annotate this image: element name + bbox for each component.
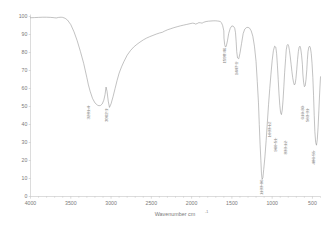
x-tick-label: 3000 [105,200,117,206]
spectrum-series [31,17,321,179]
y-tick-label: 0 [24,193,27,199]
peak-label: 1447.1 [234,61,239,75]
x-tick-label: 2000 [186,200,198,206]
y-tick-label: 80 [22,49,28,55]
y-tick-label: 20 [22,157,28,163]
x-tick-label: 1500 [226,200,238,206]
x-tick-label: 1000 [266,200,278,206]
peak-label: 563.31 [305,108,310,122]
peak-label: 3062.1 [104,108,109,122]
y-tick-label: 90 [22,31,28,37]
peak-label: 1133.96 [259,179,264,195]
ftir-spectrum-chart: 0102030405060708090100 40003500300025002… [0,0,327,229]
x-axis-title: Wavenumber cm [155,211,196,217]
x-tick-label: 500 [308,200,317,206]
y-tick-label: 10 [22,175,28,181]
x-tick-label: 2500 [146,200,158,206]
peak-label: 486.55 [311,150,316,164]
x-axis-title-superscript: -1 [205,210,208,214]
y-tick-label: 70 [22,67,28,73]
y-tick-label: 40 [22,121,28,127]
x-axis: 4000350030002500200015001000500 [25,197,321,207]
spectrum-plot-svg: 0102030405060708090100 40003500300025002… [0,0,327,229]
y-tick-label: 50 [22,103,28,109]
peak-label: 1598.46 [222,47,227,63]
y-tick-label: 60 [22,85,28,91]
y-tick-label: 30 [22,139,28,145]
x-tick-label: 3500 [65,200,77,206]
peak-label: 3281.4 [86,105,91,119]
peak-label: 833.12 [283,141,288,155]
peak-label: 960.51 [273,138,278,152]
peak-label: 1033.12 [267,121,272,137]
x-tick-label: 4000 [25,200,37,206]
y-axis: 0102030405060708090100 [19,13,31,199]
y-tick-label: 100 [19,13,28,19]
spectrum-line [31,17,321,179]
